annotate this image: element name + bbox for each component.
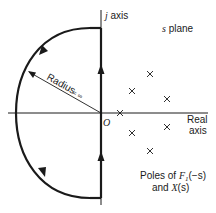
pole-marker-icon	[147, 148, 153, 154]
pole-marker-icon	[164, 96, 170, 102]
arrow-up-icon	[98, 151, 105, 161]
imaginary-axis-label: j axis	[103, 10, 128, 21]
pole-marker-icon	[164, 124, 170, 130]
origin-label: O	[103, 117, 110, 128]
pole-marker-icon	[147, 71, 153, 77]
arrow-up-icon	[98, 64, 105, 74]
s-plane-diagram: Radius = ∞ j axis s plane O Real axis Po…	[0, 0, 216, 213]
pole-marker-icon	[129, 130, 135, 136]
plane-title: s plane	[162, 23, 194, 34]
real-axis-label-line2: axis	[189, 125, 207, 136]
real-axis-label-line1: Real	[187, 114, 208, 125]
arrow-arc-bottom-icon	[38, 167, 46, 177]
radius-arrowhead-icon	[28, 71, 36, 78]
poles-caption-line2: and X(s)	[152, 182, 189, 193]
radius-value-label: = ∞	[72, 89, 85, 100]
pole-marker-icon	[129, 88, 135, 94]
